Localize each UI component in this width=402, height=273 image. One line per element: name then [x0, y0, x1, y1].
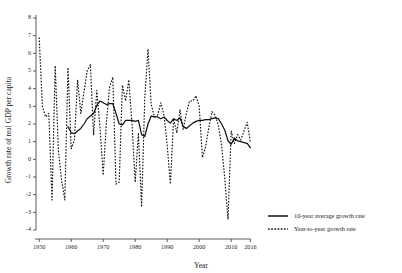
- y-tick-group: -4-3-2-1012345678: [26, 13, 36, 232]
- x-tick-label: 1960: [65, 243, 77, 250]
- x-tick-label: 1950: [33, 243, 45, 250]
- y-tick-label: 2: [28, 119, 31, 126]
- y-tick-label: 7: [28, 31, 31, 38]
- x-tick-label: 1990: [161, 243, 173, 250]
- y-axis: -4-3-2-1012345678: [26, 13, 36, 232]
- legend-label-year-to-year: Year-to-year growth rate: [294, 225, 356, 232]
- legend-label-10-year-average: 10-year average growth rate: [294, 212, 365, 219]
- y-tick-label: -1: [26, 172, 31, 179]
- series-10-year-average-growth-rate: [68, 101, 250, 148]
- x-tick-group: 19501960197019801990200020102016: [33, 239, 257, 250]
- x-axis-title: Year: [194, 261, 208, 270]
- x-tick-label: 2016: [244, 243, 256, 250]
- y-tick-label: 0: [28, 155, 31, 162]
- x-tick-label: 2010: [225, 243, 237, 250]
- y-tick-label: -4: [26, 225, 31, 232]
- y-tick-label: -2: [26, 190, 31, 197]
- chart-legend: 10-year average growth rate Year-to-year…: [268, 212, 365, 232]
- y-tick-label: 8: [28, 13, 31, 20]
- y-tick-label: 1: [28, 137, 31, 144]
- y-tick-label: -3: [26, 208, 31, 215]
- x-tick-label: 2000: [193, 243, 205, 250]
- growth-rate-line-chart: -4-3-2-1012345678 1950196019701980199020…: [0, 0, 402, 273]
- series-group: [39, 37, 250, 219]
- y-tick-label: 6: [28, 49, 31, 56]
- series-year-to-year-growth-rate: [39, 37, 250, 219]
- x-tick-label: 1970: [97, 243, 109, 250]
- x-tick-label: 1980: [129, 243, 141, 250]
- y-tick-label: 5: [28, 66, 31, 73]
- y-tick-label: 3: [28, 102, 31, 109]
- y-axis-title: Growth rate of real GDP per capita: [4, 76, 13, 183]
- x-axis: 19501960197019801990200020102016: [33, 239, 257, 250]
- chart-figure: -4-3-2-1012345678 1950196019701980199020…: [0, 0, 402, 273]
- y-tick-label: 4: [28, 84, 31, 91]
